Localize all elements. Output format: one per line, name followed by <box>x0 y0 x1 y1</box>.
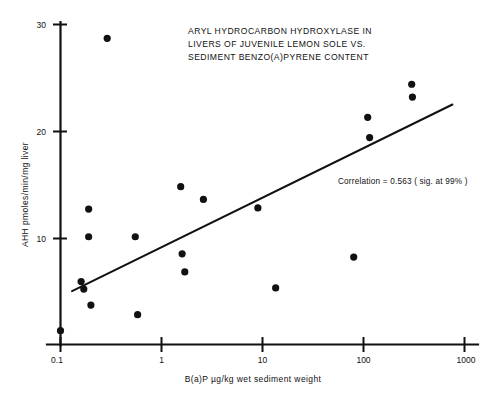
scatter-point <box>350 253 357 260</box>
scatter-point <box>179 250 186 257</box>
chart-figure: 30 20 10 0.1 1 10 100 1000 AHH pmoles/mi… <box>0 0 497 399</box>
y-axis-title: AHH pmoles/min/mg liver <box>20 142 30 247</box>
scatter-point <box>78 278 85 285</box>
scatter-point <box>409 93 416 100</box>
scatter-point <box>181 268 188 275</box>
chart-title-block: ARYL HYDROCARBON HYDROXYLASE IN LIVERS O… <box>188 26 372 62</box>
chart-title-line-1: ARYL HYDROCARBON HYDROXYLASE IN <box>188 26 372 36</box>
y-ticklabel-30: 30 <box>37 20 47 30</box>
scatter-point <box>104 35 111 42</box>
scatter-point <box>80 285 87 292</box>
scatter-point <box>87 301 94 308</box>
scatter-point <box>177 183 184 190</box>
scatter-point <box>85 205 92 212</box>
x-ticklabel-10: 10 <box>258 355 268 365</box>
y-ticklabel-20: 20 <box>37 127 47 137</box>
x-ticklabel-100: 100 <box>356 355 370 365</box>
scatter-point <box>254 204 261 211</box>
scatter-point <box>364 114 371 121</box>
chart-title-line-3: SEDIMENT BENZO(A)PYRENE CONTENT <box>188 52 369 62</box>
chart-title-line-2: LIVERS OF JUVENILE LEMON SOLE VS. <box>188 39 366 49</box>
x-ticklabel-1: 1 <box>159 355 164 365</box>
scatter-point <box>408 81 415 88</box>
x-ticklabel-0.1: 0.1 <box>51 355 63 365</box>
scatter-point <box>272 284 279 291</box>
scatter-point <box>134 311 141 318</box>
scatter-point <box>366 134 373 141</box>
x-axis-title: B(a)P µg/kg wet sediment weight <box>185 374 322 384</box>
y-ticklabel-10: 10 <box>37 234 47 244</box>
y-ticks-group: 30 20 10 <box>37 20 67 244</box>
x-ticklabel-1000: 1000 <box>457 355 476 365</box>
scatter-point <box>200 196 207 203</box>
scatter-point <box>57 327 64 334</box>
scatter-plot-svg: 30 20 10 0.1 1 10 100 1000 AHH pmoles/mi… <box>0 0 497 399</box>
scatter-point <box>132 233 139 240</box>
scatter-point <box>85 233 92 240</box>
x-ticks-group: 0.1 1 10 100 1000 <box>51 337 476 365</box>
regression-line <box>72 105 452 292</box>
correlation-annotation: Correlation = 0.563 ( sig. at 99% ) <box>338 177 468 186</box>
